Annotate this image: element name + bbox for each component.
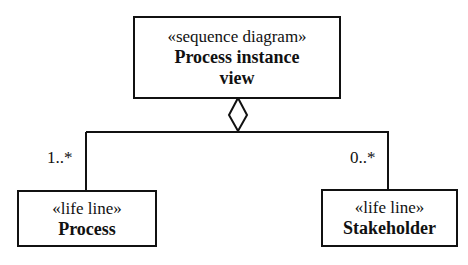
aggregation-diamond-icon <box>229 98 247 131</box>
left-multiplicity: 1..* <box>47 148 73 168</box>
container-name-line2: view <box>135 68 339 89</box>
process-stereotype: «life line» <box>19 198 155 219</box>
stakeholder-name: Stakeholder <box>323 218 456 239</box>
right-multiplicity: 0..* <box>350 148 376 168</box>
lifeline-process-box[interactable]: «life line» Process <box>17 190 157 247</box>
stakeholder-stereotype: «life line» <box>323 197 456 218</box>
container-name-line1: Process instance <box>135 47 339 68</box>
container-stereotype: «sequence diagram» <box>135 26 339 47</box>
lifeline-stakeholder-box[interactable]: «life line» Stakeholder <box>321 189 458 247</box>
sequence-diagram-box[interactable]: «sequence diagram» Process instance view <box>133 16 341 99</box>
process-name: Process <box>19 219 155 240</box>
